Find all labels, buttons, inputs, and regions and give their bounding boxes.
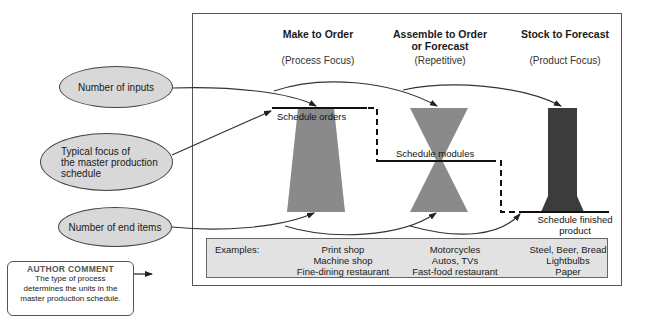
schedule-modules-label: Schedule modules [396, 148, 474, 159]
column-title-make-to-order: Make to Order [258, 28, 378, 40]
example-item: Fast-food restaurant [391, 266, 519, 277]
schedule-finished-line1: Schedule finished [520, 214, 630, 225]
oval-typical-focus-line1: Typical focus of [61, 146, 158, 157]
example-item: Motorcycles [391, 244, 519, 255]
column-subtitle-make-to-order: (Process Focus) [258, 55, 378, 66]
oval-typical-focus-line2: the master production [61, 157, 158, 168]
column-subtitle-stock-to-forecast: (Product Focus) [510, 55, 620, 66]
stock-to-forecast-shape [541, 108, 584, 212]
author-comment-line2: determines the units in the [8, 284, 133, 294]
column-title-assemble: Assemble to Order or Forecast [378, 28, 502, 52]
make-to-order-funnel [287, 108, 345, 212]
oval-number-of-end-items: Number of end items [58, 207, 172, 247]
examples-stock-to-forecast: Steel, Beer, Bread Lightbulbs Paper [513, 244, 623, 277]
author-comment-title: AUTHOR COMMENT [8, 264, 133, 274]
oval-typical-focus: Typical focus of the master production s… [40, 133, 173, 191]
schedule-finished-line2: product [520, 225, 630, 236]
schedule-orders-label: Schedule orders [277, 111, 346, 122]
oval-typical-focus-line3: schedule [61, 168, 158, 179]
author-comment-line3: master production schedule. [8, 294, 133, 304]
example-item: Paper [513, 266, 623, 277]
oval-number-of-end-items-label: Number of end items [69, 222, 162, 233]
examples-box: Examples: Print shop Machine shop Fine-d… [206, 238, 608, 278]
example-item: Lightbulbs [513, 255, 623, 266]
example-item: Steel, Beer, Bread [513, 244, 623, 255]
examples-label: Examples: [215, 244, 259, 255]
oval-number-of-inputs: Number of inputs [59, 66, 173, 108]
oval-number-of-inputs-label: Number of inputs [78, 82, 154, 93]
author-comment-line1: The type of process [8, 274, 133, 284]
column-title-assemble-line1: Assemble to Order [378, 28, 502, 40]
examples-assemble-to-order: Motorcycles Autos, TVs Fast-food restaur… [391, 244, 519, 277]
column-title-assemble-line2: or Forecast [378, 40, 502, 52]
column-subtitle-assemble: (Repetitive) [378, 55, 502, 66]
author-comment-box: AUTHOR COMMENT The type of process deter… [7, 261, 134, 316]
column-title-stock-to-forecast: Stock to Forecast [510, 28, 620, 40]
example-item: Autos, TVs [391, 255, 519, 266]
schedule-finished-product-label: Schedule finished product [520, 214, 630, 236]
